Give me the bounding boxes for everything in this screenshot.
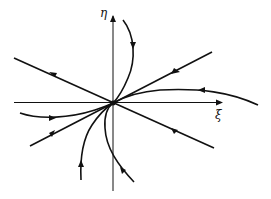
origin-node [111,101,116,106]
arrow-bottom-left-curve [78,160,84,167]
curve-top [113,20,133,103]
eta-axis-label: η [100,6,107,20]
phase-portrait-diagram: η ξ [0,0,271,199]
xi-axis-label: ξ [215,108,222,122]
arrow-left-curve [49,115,56,121]
phase-portrait-svg [0,0,271,199]
arrow-lower-right-line [171,128,178,134]
curve-bottom [105,103,134,182]
arrow-top-curve [130,42,136,49]
arrow-right-curve [198,87,205,93]
